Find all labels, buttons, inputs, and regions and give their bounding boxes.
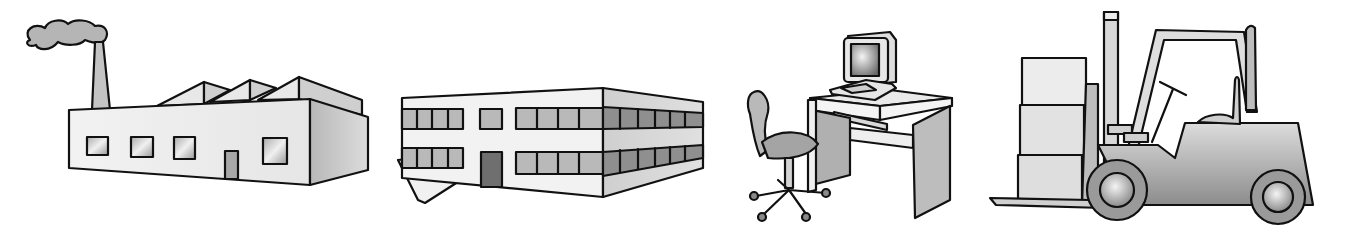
exhaust-pipe: [1246, 26, 1256, 110]
forklift-illustration: [980, 0, 1347, 240]
computer-desk-illustration: [720, 0, 980, 240]
steering-wheel: [1152, 82, 1186, 142]
stacked-boxes: [1018, 58, 1098, 205]
forks: [990, 198, 1104, 208]
front-wheel: [1087, 160, 1147, 220]
computer-monitor: [830, 32, 896, 100]
smokestack: [92, 42, 110, 110]
seat: [1198, 77, 1240, 124]
rear-wheel: [1251, 170, 1305, 224]
upper-windows: [402, 107, 703, 129]
building-entrance-door: [481, 152, 502, 187]
factory-body: [69, 99, 368, 185]
office-building-illustration: [380, 0, 720, 240]
desk: [808, 90, 952, 218]
factory-door: [225, 151, 238, 179]
factory-illustration: [0, 0, 380, 240]
building-side: [603, 88, 703, 197]
